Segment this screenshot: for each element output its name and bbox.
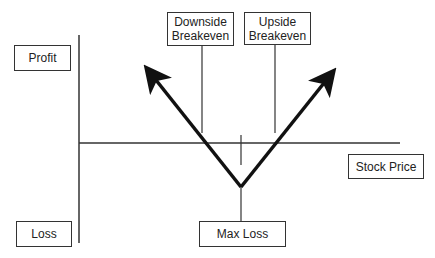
loss-label: Loss (16, 221, 72, 247)
profit-text: Profit (28, 51, 56, 65)
left-payoff-arrow (148, 70, 241, 187)
loss-text: Loss (31, 227, 56, 241)
max-loss-text: Max Loss (217, 227, 268, 241)
downside-breakeven-label: Downside Breakeven (167, 12, 234, 46)
upside-breakeven-label: Upside Breakeven (244, 12, 311, 45)
downside-breakeven-text: Breakeven (172, 29, 229, 43)
upside-text: Upside (259, 15, 296, 29)
stock-price-label: Stock Price (348, 154, 424, 179)
upside-breakeven-text: Breakeven (249, 29, 306, 43)
downside-text: Downside (174, 15, 227, 29)
right-payoff-arrow (241, 73, 332, 187)
stock-price-text: Stock Price (356, 160, 417, 174)
max-loss-label: Max Loss (199, 221, 286, 247)
profit-label: Profit (14, 45, 71, 71)
